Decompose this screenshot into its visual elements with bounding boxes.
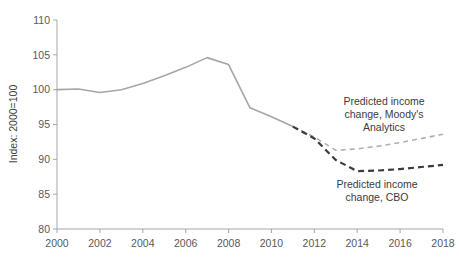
- y-axis-title-group: Index: 2000=100: [7, 85, 19, 164]
- annotation-cbo-line2: change, CBO: [345, 191, 408, 203]
- x-tick-2016: 2016: [388, 237, 412, 249]
- y-axis: [53, 20, 57, 229]
- x-axis-tick-labels: 2000 2002 2004 2006 2008 2010 2012 2014 …: [45, 237, 455, 249]
- x-tick-2008: 2008: [217, 237, 241, 249]
- y-tick-85: 85: [38, 188, 50, 200]
- y-tick-100: 100: [32, 83, 50, 95]
- y-tick-95: 95: [38, 118, 50, 130]
- annotation-cbo-line1: Predicted income: [336, 178, 417, 190]
- y-axis-title: Index: 2000=100: [7, 85, 19, 164]
- x-tick-2014: 2014: [346, 237, 370, 249]
- annotation-moodys-line1: Predicted income: [343, 95, 424, 107]
- x-tick-2010: 2010: [260, 237, 284, 249]
- series-line-historical: [57, 58, 293, 127]
- chart-container: Index: 2000=100 110 105 100 95 90 85 80: [0, 0, 459, 259]
- y-axis-tick-labels: 110 105 100 95 90 85 80: [32, 14, 50, 235]
- y-tick-110: 110: [33, 14, 50, 26]
- x-axis: [57, 229, 443, 233]
- x-tick-2002: 2002: [88, 237, 112, 249]
- annotation-moodys: Predicted income change, Moody's Analyti…: [343, 95, 424, 133]
- y-tick-80: 80: [38, 223, 50, 235]
- annotation-cbo: Predicted income change, CBO: [336, 178, 417, 203]
- income-index-line-chart: Index: 2000=100 110 105 100 95 90 85 80: [0, 0, 459, 259]
- annotation-moodys-line3: Analytics: [363, 121, 405, 133]
- annotation-moodys-line2: change, Moody's: [344, 108, 423, 120]
- x-tick-2006: 2006: [174, 237, 198, 249]
- x-tick-2012: 2012: [303, 237, 327, 249]
- x-tick-2000: 2000: [45, 237, 69, 249]
- y-tick-105: 105: [32, 49, 50, 61]
- x-tick-2018: 2018: [431, 237, 455, 249]
- x-tick-2004: 2004: [131, 237, 155, 249]
- y-tick-90: 90: [38, 153, 50, 165]
- series-line-cbo: [293, 127, 443, 172]
